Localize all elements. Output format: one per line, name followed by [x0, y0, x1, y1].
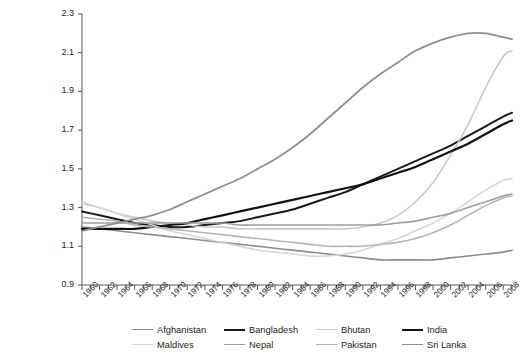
- y-tick-label: 2.3: [48, 8, 74, 18]
- legend-label: Afghanistan: [157, 325, 206, 335]
- legend-item-maldives[interactable]: Maldives: [132, 340, 224, 350]
- y-tick-label: 1.9: [48, 85, 74, 95]
- y-tick-label: 1.3: [48, 202, 74, 212]
- chart-figure: ratio of working-age population to nonwo…: [0, 0, 527, 363]
- legend-item-nepal[interactable]: Nepal: [224, 340, 316, 350]
- series-line-bangladesh: [82, 113, 512, 227]
- legend-label: Bangladesh: [249, 325, 298, 335]
- axis-lines: [82, 14, 512, 285]
- legend-swatch-icon: [316, 329, 337, 330]
- legend-swatch-icon: [316, 344, 337, 345]
- legend-label: Sri Lanka: [427, 340, 466, 350]
- series-line-india: [82, 120, 512, 229]
- legend-swatch-icon: [224, 344, 245, 345]
- y-tick-label: 1.5: [48, 163, 74, 173]
- legend-item-bangladesh[interactable]: Bangladesh: [224, 325, 316, 335]
- legend-swatch-icon: [402, 344, 423, 345]
- series-line-bhutan: [82, 51, 512, 229]
- series-line-sri-lanka: [82, 33, 512, 231]
- legend-item-sri-lanka[interactable]: Sri Lanka: [402, 340, 488, 350]
- y-tick-label: 2.1: [48, 47, 74, 57]
- legend-label: Bhutan: [341, 325, 370, 335]
- series-lines: [82, 33, 512, 260]
- legend-label: Maldives: [157, 340, 194, 350]
- series-line-pakistan: [82, 196, 512, 246]
- y-tick-label: 0.9: [48, 279, 74, 289]
- legend-swatch-icon: [132, 344, 153, 345]
- legend-label: India: [427, 325, 447, 335]
- y-tick-label: 1.7: [48, 124, 74, 134]
- legend-swatch-icon: [132, 329, 153, 330]
- legend-label: Pakistan: [341, 340, 377, 350]
- legend-item-india[interactable]: India: [402, 325, 488, 335]
- legend-swatch-icon: [402, 329, 423, 331]
- chart-legend: AfghanistanBangladeshBhutanIndiaMaldives…: [132, 322, 462, 352]
- legend-swatch-icon: [224, 329, 245, 331]
- legend-item-bhutan[interactable]: Bhutan: [316, 325, 402, 335]
- plot-area: [0, 0, 527, 363]
- legend-item-afghanistan[interactable]: Afghanistan: [132, 325, 224, 335]
- legend-item-pakistan[interactable]: Pakistan: [316, 340, 402, 350]
- y-tick-label: 1.1: [48, 240, 74, 250]
- legend-label: Nepal: [249, 340, 273, 350]
